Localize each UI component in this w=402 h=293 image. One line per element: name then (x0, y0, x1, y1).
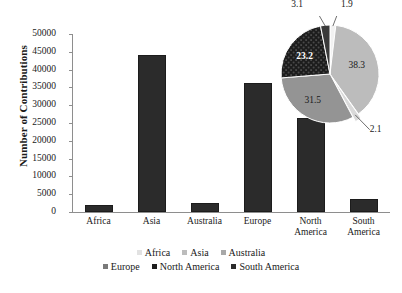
y-tick-label: 45000 (12, 47, 56, 56)
pie-slice-label: 38.3 (348, 60, 365, 70)
pie-slice-label: 2.1 (370, 124, 382, 134)
legend-swatch-icon (137, 250, 142, 255)
y-tick-label: 25000 (12, 118, 56, 127)
bar-cell (72, 34, 125, 212)
pie-slice-label: 23.2 (296, 51, 313, 61)
legend-label: Europe (111, 261, 140, 272)
legend-item[interactable]: North America (152, 260, 220, 274)
x-tick-label: Asia (125, 216, 178, 227)
bar-cell (125, 34, 178, 212)
legend-item[interactable]: Africa (137, 246, 171, 260)
y-tick-label: 30000 (12, 100, 56, 109)
legend-label: South America (239, 261, 299, 272)
bar-cell (178, 34, 231, 212)
pie-leader-line (333, 16, 341, 26)
legend-swatch-icon (182, 250, 187, 255)
x-tick-label: Africa (72, 216, 125, 227)
legend-item[interactable]: Asia (182, 246, 208, 260)
legend-item[interactable]: Europe (103, 260, 140, 274)
legend-swatch-icon (221, 250, 226, 255)
bar[interactable] (138, 55, 166, 212)
legend-item[interactable]: South America (231, 260, 299, 274)
bar[interactable] (191, 203, 219, 212)
legend-item[interactable]: Australia (221, 246, 266, 260)
chart-legend: AfricaAsiaAustraliaEuropeNorth AmericaSo… (0, 246, 402, 274)
x-tick-label: Australia (178, 216, 231, 227)
x-tick-label: SouthAmerica (337, 216, 390, 237)
bar[interactable] (85, 205, 113, 212)
y-tick-label: 20000 (12, 136, 56, 145)
legend-label: Africa (145, 247, 171, 258)
legend-swatch-icon (103, 264, 108, 269)
pie-slice-label: 1.9 (341, 0, 353, 9)
pie-leader-line (313, 16, 325, 26)
pie-slice-label: 31.5 (304, 95, 321, 105)
x-tick-label: NorthAmerica (284, 216, 337, 237)
y-tick (69, 212, 72, 213)
inset-pie-chart: 1.938.32.131.523.23.1 (272, 16, 388, 132)
bar[interactable] (350, 199, 378, 212)
y-tick-label: 5000 (12, 189, 56, 198)
chart-figure: Number of Contributions 0500010000150002… (0, 0, 402, 293)
legend-label: North America (160, 261, 220, 272)
y-tick-label: 50000 (12, 29, 56, 38)
legend-label: Australia (229, 247, 266, 258)
legend-row: EuropeNorth AmericaSouth America (0, 260, 402, 274)
pie-leader-line (355, 115, 370, 130)
pie-svg (272, 16, 388, 132)
legend-label: Asia (190, 247, 208, 258)
y-tick-label: 35000 (12, 82, 56, 91)
y-tick-label: 10000 (12, 171, 56, 180)
pie-slice-label: 3.1 (291, 0, 303, 9)
y-tick-label: 40000 (12, 65, 56, 74)
legend-row: AfricaAsiaAustralia (0, 246, 402, 260)
legend-swatch-icon (152, 264, 157, 269)
y-tick-label: 0 (12, 207, 56, 216)
x-axis-line (72, 212, 390, 213)
x-tick-label: Europe (231, 216, 284, 227)
legend-swatch-icon (231, 264, 236, 269)
y-tick-label: 15000 (12, 154, 56, 163)
bar[interactable] (244, 83, 272, 212)
